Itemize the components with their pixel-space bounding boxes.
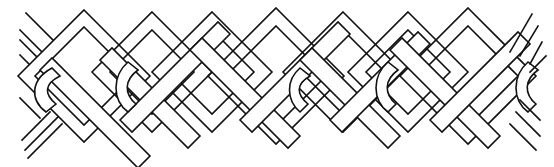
knotwork-canvas: [0, 0, 554, 167]
celtic-knot-border: [0, 0, 554, 167]
